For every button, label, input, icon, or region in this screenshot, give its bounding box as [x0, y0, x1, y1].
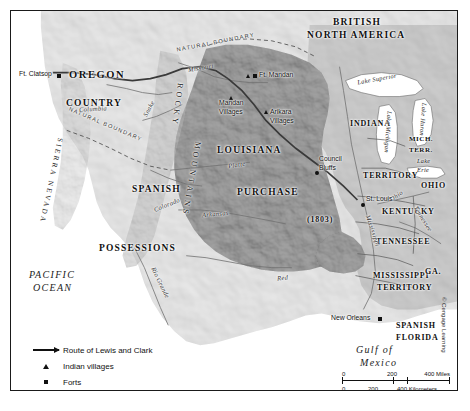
- legend-label-forts: Forts: [63, 378, 81, 387]
- map-graphic: [11, 11, 457, 390]
- scale-bar-miles: [342, 377, 450, 384]
- marker-arikara-villages: [264, 110, 268, 114]
- marker-new-orleans: [378, 317, 382, 321]
- legend-item-forts: Forts: [29, 374, 152, 390]
- map-scale: 0 200 400 Miles 0 200 400 Kilometers: [342, 369, 450, 391]
- scale-km-numbers: 0 200 400 Kilometers: [342, 385, 450, 391]
- legend-label-route: Route of Lewis and Clark: [63, 346, 152, 355]
- scale-km-mid: 200: [368, 386, 378, 391]
- square-icon: [29, 380, 63, 384]
- scale-km-start: 0: [342, 386, 345, 391]
- legend-item-route: Route of Lewis and Clark: [29, 342, 152, 358]
- marker-ft-mandan-village: [246, 74, 250, 78]
- map-frame: BRITISH NORTH AMERICA OREGON COUNTRY SPA…: [10, 10, 458, 391]
- map-legend: Route of Lewis and Clark Indian villages…: [29, 342, 152, 390]
- lake-michigan-shape: [376, 105, 397, 165]
- legend-item-villages: Indian villages: [29, 358, 152, 374]
- triangle-icon: [29, 364, 63, 369]
- scale-miles-numbers: 0 200 400 Miles: [342, 369, 450, 377]
- copyright-credit: © Cengage Learning: [441, 297, 447, 389]
- scale-km-end: 400 Kilometers: [397, 386, 437, 391]
- marker-ft-mandan-fort: [253, 74, 257, 78]
- marker-ft-clatsop: [57, 74, 61, 78]
- marker-st-louis: [361, 203, 365, 207]
- legend-label-villages: Indian villages: [63, 362, 114, 371]
- marker-mandan-villages: [229, 96, 233, 100]
- arrow-icon: [29, 349, 63, 350]
- marker-council-bluffs: [315, 171, 319, 175]
